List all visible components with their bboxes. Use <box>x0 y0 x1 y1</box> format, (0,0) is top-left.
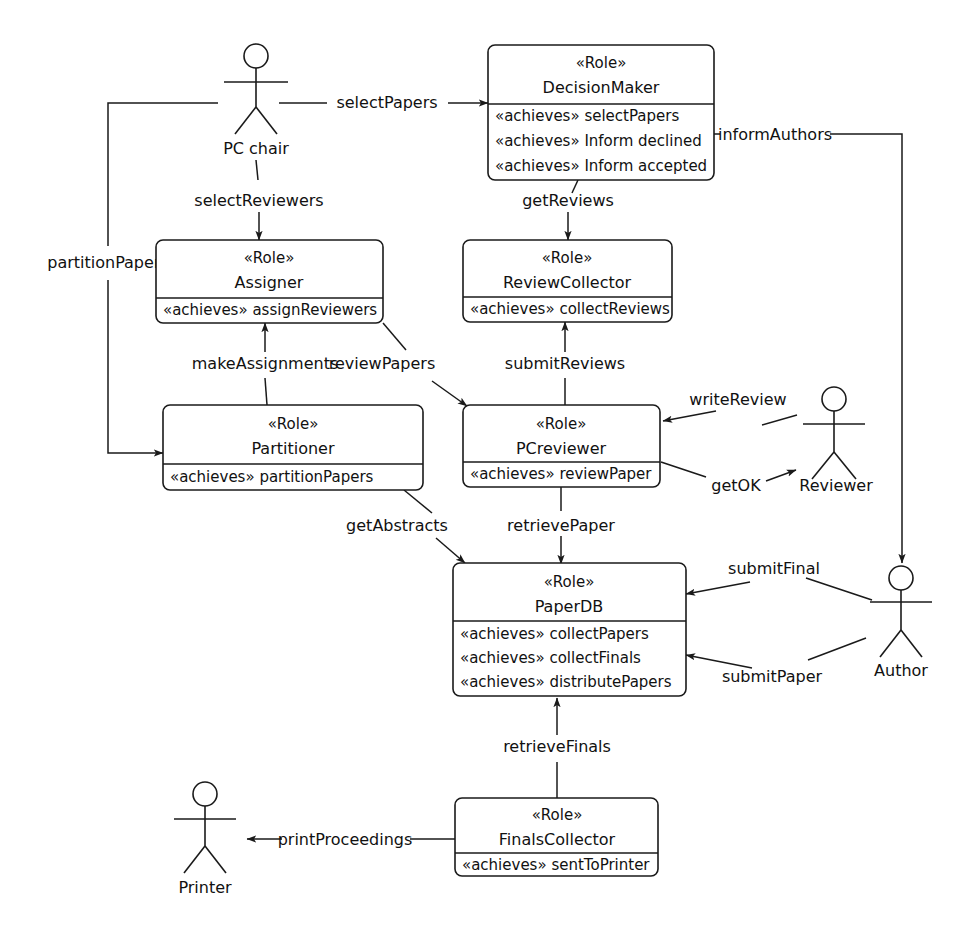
edge-get-reviews: getReviews <box>522 180 614 240</box>
role-name-partitioner: Partitioner <box>251 439 335 458</box>
edge-review-papers: reviewPapers <box>329 323 467 406</box>
edge-write-review: writeReview <box>663 390 797 425</box>
role-achieves-item: «achieves» collectPapers <box>460 625 649 643</box>
role-achieves-item: «achieves» collectFinals <box>460 649 641 667</box>
edge-select-papers: selectPapers <box>279 93 488 112</box>
role-achieves-item: «achieves» collectReviews <box>470 300 670 318</box>
role-name-assigner: Assigner <box>235 273 304 292</box>
edge-retrieve-paper: retrievePaper <box>507 487 615 564</box>
role-stereotype-finals-collector: «Role» <box>532 806 583 824</box>
actor-label-reviewer: Reviewer <box>799 476 873 495</box>
role-stereotype-assigner: «Role» <box>244 249 295 267</box>
role-name-finals-collector: FinalsCollector <box>499 830 616 849</box>
edge-label-review-papers: reviewPapers <box>329 354 436 373</box>
role-name-review-collector: ReviewCollector <box>503 273 632 292</box>
actor-label-printer: Printer <box>178 878 232 897</box>
edge-retrieve-finals: retrieveFinals <box>503 698 611 798</box>
role-box-review-collector[interactable]: «Role» ReviewCollector «achieves» collec… <box>463 240 672 322</box>
edge-submit-reviews: submitReviews <box>505 322 625 405</box>
actor-pc-chair[interactable]: PC chair <box>223 44 289 158</box>
edge-label-partition-papers: partitionPapers <box>47 253 169 272</box>
edge-label-get-abstracts: getAbstracts <box>346 516 448 535</box>
edge-label-get-reviews: getReviews <box>522 191 614 210</box>
edge-label-select-reviewers: selectReviewers <box>194 191 323 210</box>
edge-make-assignments: makeAssignments <box>192 323 338 405</box>
edge-label-retrieve-paper: retrievePaper <box>507 516 615 535</box>
role-stereotype-pc-reviewer: «Role» <box>536 415 587 433</box>
role-achieves-item: «achieves» sentToPrinter <box>462 856 650 874</box>
edge-get-abstracts: getAbstracts <box>346 490 465 563</box>
role-achieves-item: «achieves» Inform declined <box>495 132 702 150</box>
edge-label-submit-paper: submitPaper <box>722 667 823 686</box>
edge-print-proceedings: printProceedings <box>247 830 455 849</box>
role-achieves-item: «achieves» distributePapers <box>460 673 672 691</box>
diagram-svg: selectPapers selectReviewers partitionPa… <box>0 0 973 928</box>
actor-printer[interactable]: Printer <box>174 782 236 897</box>
role-box-partitioner[interactable]: «Role» Partitioner «achieves» partitionP… <box>163 405 423 490</box>
role-name-pc-reviewer: PCreviewer <box>516 439 607 458</box>
actor-author[interactable]: Author <box>870 566 932 680</box>
edge-label-make-assignments: makeAssignments <box>192 354 338 373</box>
role-name-decision-maker: DecisionMaker <box>543 78 660 97</box>
role-box-decision-maker[interactable]: «Role» DecisionMaker «achieves» selectPa… <box>488 45 714 180</box>
role-achieves-item: «achieves» selectPapers <box>495 107 679 125</box>
edge-inform-authors: informAuthors <box>714 125 902 563</box>
actor-reviewer[interactable]: Reviewer <box>799 387 873 495</box>
role-box-paper-db[interactable]: «Role» PaperDB «achieves» collectPapers … <box>453 563 686 696</box>
edge-label-print-proceedings: printProceedings <box>278 830 413 849</box>
edge-label-retrieve-finals: retrieveFinals <box>503 737 611 756</box>
edge-label-get-ok: getOK <box>711 476 761 495</box>
role-box-pc-reviewer[interactable]: «Role» PCreviewer «achieves» reviewPaper <box>463 405 660 487</box>
role-box-assigner[interactable]: «Role» Assigner «achieves» assignReviewe… <box>156 240 383 323</box>
edge-label-submit-final: submitFinal <box>728 559 820 578</box>
role-box-finals-collector[interactable]: «Role» FinalsCollector «achieves» sentTo… <box>455 798 658 876</box>
role-stereotype-decision-maker: «Role» <box>576 54 627 72</box>
role-achieves-item: «achieves» assignReviewers <box>163 301 377 319</box>
role-stereotype-partitioner: «Role» <box>268 415 319 433</box>
role-achieves-item: «achieves» reviewPaper <box>470 465 652 483</box>
edge-submit-final: submitFinal <box>686 559 872 600</box>
edge-submit-paper: submitPaper <box>686 638 866 686</box>
role-name-paper-db: PaperDB <box>535 597 604 616</box>
edge-label-submit-reviews: submitReviews <box>505 354 625 373</box>
role-stereotype-paper-db: «Role» <box>544 573 595 591</box>
edge-select-reviewers: selectReviewers <box>194 160 323 240</box>
edge-label-inform-authors: informAuthors <box>718 125 832 144</box>
actor-label-author: Author <box>874 661 928 680</box>
role-diagram-canvas: selectPapers selectReviewers partitionPa… <box>0 0 973 928</box>
role-achieves-item: «achieves» Inform accepted <box>495 157 707 175</box>
edge-label-write-review: writeReview <box>689 390 786 409</box>
role-achieves-item: «achieves» partitionPapers <box>170 468 374 486</box>
actor-label-pc-chair: PC chair <box>223 139 289 158</box>
edge-label-select-papers: selectPapers <box>336 93 437 112</box>
edge-get-ok: getOK <box>661 462 796 495</box>
role-stereotype-review-collector: «Role» <box>542 249 593 267</box>
